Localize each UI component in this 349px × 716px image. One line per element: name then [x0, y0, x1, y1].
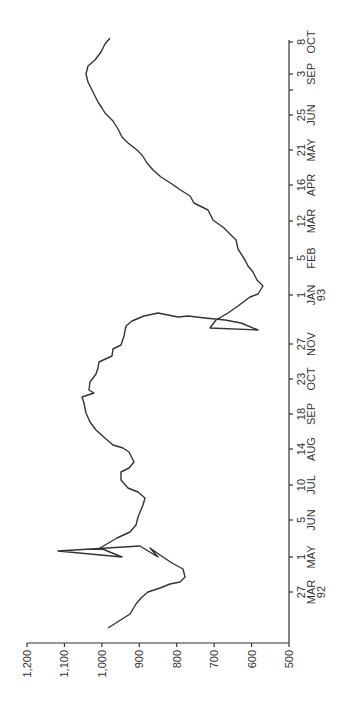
line-chart: 1,2001,1001,000900800700600500 27MAR921M…: [0, 0, 349, 716]
date-tick-label: FEB: [305, 247, 317, 268]
date-tick-label: MAR: [305, 209, 317, 234]
value-tick-label: 900: [133, 650, 145, 668]
price-series-line: [58, 38, 263, 628]
value-axis-ticks: 1,2001,1001,000900800700600500: [21, 643, 295, 678]
date-tick-label: MAY: [305, 138, 317, 162]
value-tick-label: 500: [283, 650, 295, 668]
date-tick-label: JUL: [305, 475, 317, 495]
date-tick-label: OCT: [305, 367, 317, 391]
date-tick-label: AUG: [305, 437, 317, 461]
date-axis-ticks: 27MAR921MAY5JUN10JUL14AUG18SEP23OCT27NOV…: [289, 30, 327, 604]
date-tick-label: SEP: [305, 403, 317, 425]
date-tick-label: NOV: [305, 331, 317, 356]
value-tick-label: 700: [208, 650, 220, 668]
date-tick-label: SEP: [305, 63, 317, 85]
value-tick-label: 1,100: [58, 650, 70, 678]
date-tick-label: APR: [305, 174, 317, 197]
date-tick-label: JUN: [305, 509, 317, 530]
date-tick-label: 93: [315, 289, 327, 301]
value-tick-label: 600: [246, 650, 258, 668]
date-tick-label: 92: [315, 586, 327, 598]
date-tick-label: MAY: [305, 545, 317, 569]
date-tick-label: OCT: [305, 30, 317, 54]
value-tick-label: 1,000: [96, 650, 108, 678]
date-tick-label: JUN: [305, 104, 317, 125]
value-tick-label: 1,200: [21, 650, 33, 678]
value-tick-label: 800: [171, 650, 183, 668]
